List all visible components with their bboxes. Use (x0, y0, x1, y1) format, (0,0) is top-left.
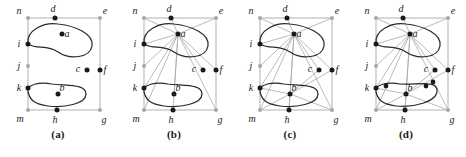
vertex-label-h: h (285, 114, 290, 125)
vertex-label-e: e (103, 5, 108, 16)
vertex-label-c: c (308, 63, 313, 74)
panel-c: ndeijkmhgfcab(c) (232, 0, 348, 157)
vertex-label-c: c (76, 63, 81, 74)
vertex-label-k: k (365, 82, 370, 93)
vertex-c (85, 68, 90, 73)
vertex-label-m: m (248, 113, 255, 124)
vertex-label-f: f (220, 64, 224, 75)
vertex-label-c: c (192, 63, 197, 74)
vertex-label-b: b (408, 82, 413, 93)
vertex-e (214, 16, 218, 20)
vertex-h (55, 108, 60, 113)
panel-b-caption: (b) (116, 128, 232, 140)
vertex-d (401, 16, 406, 21)
vertex-label-a: a (181, 28, 186, 39)
edge-b-m (376, 94, 406, 110)
vertex-label-j: j (364, 60, 369, 71)
vertex-label-h: h (169, 114, 174, 125)
vertex-label-j: j (248, 60, 253, 71)
vertex-label-i: i (366, 38, 369, 49)
vertex-label-f: f (452, 64, 456, 75)
edge-a-c (410, 34, 435, 70)
edge-a-m (144, 34, 178, 110)
vertex-n (142, 16, 146, 20)
vertex-label-b: b (60, 82, 65, 93)
vertex-label-k: k (17, 82, 22, 93)
vertex-i (258, 42, 263, 47)
panel-c-caption: (c) (232, 128, 348, 140)
vertex-label-f: f (336, 64, 340, 75)
vertex-label-n: n (17, 5, 22, 16)
vertex-k (142, 86, 147, 91)
region-blob-a (28, 24, 92, 57)
vertex-label-d: d (283, 3, 289, 14)
vertex-j (258, 64, 262, 68)
vertex-label-a: a (65, 28, 70, 39)
extra-vertex-p3 (431, 80, 436, 85)
vertex-j (374, 64, 378, 68)
figure-four-panel-diagram: ndeijkmhgfcab(a)ndeijkmhgfcab(b)ndeijkmh… (0, 0, 466, 157)
edge-a-c (294, 34, 319, 70)
panel-d-caption: (d) (348, 128, 464, 140)
vertex-label-n: n (249, 5, 254, 16)
vertex-i (142, 42, 147, 47)
vertex-d (53, 16, 58, 21)
vertex-label-i: i (18, 38, 21, 49)
vertex-h (287, 108, 292, 113)
panel-d-canvas: ndeijkmhgfcab (348, 0, 464, 130)
vertex-label-n: n (133, 5, 138, 16)
vertex-label-f: f (104, 64, 108, 75)
vertex-label-b: b (292, 82, 297, 93)
vertex-e (98, 16, 102, 20)
vertex-label-n: n (365, 5, 370, 16)
extra-vertex-p1 (384, 84, 389, 89)
vertex-label-j: j (16, 60, 21, 71)
vertex-label-b: b (176, 82, 181, 93)
vertex-label-g: g (218, 114, 223, 125)
vertex-label-c: c (424, 63, 429, 74)
panel-b: ndeijkmhgfcab(b) (116, 0, 232, 157)
vertex-f (446, 68, 451, 73)
vertex-label-g: g (102, 114, 107, 125)
vertex-label-h: h (401, 114, 406, 125)
vertex-f (330, 68, 335, 73)
vertex-m (26, 108, 30, 112)
vertex-label-m: m (364, 113, 371, 124)
vertex-g (98, 108, 102, 112)
vertex-label-g: g (334, 114, 339, 125)
extra-vertex-p2 (424, 84, 429, 89)
vertex-m (374, 108, 378, 112)
edge-b-k (376, 88, 406, 94)
edge-a-m (260, 34, 294, 110)
vertex-n (374, 16, 378, 20)
vertex-label-d: d (51, 3, 57, 14)
edge-a-f (294, 34, 332, 70)
vertex-i (26, 42, 31, 47)
vertex-label-k: k (249, 82, 254, 93)
vertex-g (446, 108, 450, 112)
edge-b-k (260, 88, 290, 94)
vertex-label-j: j (132, 60, 137, 71)
vertex-d (169, 16, 174, 21)
vertex-h (403, 108, 408, 113)
vertex-k (374, 86, 379, 91)
panel-d: ndeijkmhgfcab(d) (348, 0, 464, 157)
panel-a: ndeijkmhgfcab(a) (0, 0, 116, 157)
vertex-label-a: a (413, 28, 418, 39)
edge-a-g (410, 34, 448, 110)
edge-a-f (410, 34, 448, 70)
vertex-label-i: i (250, 38, 253, 49)
vertex-label-e: e (335, 5, 340, 16)
edge-a-m (376, 34, 410, 110)
vertex-m (258, 108, 262, 112)
vertex-f (98, 68, 103, 73)
edge-a-g (178, 34, 216, 110)
vertex-f (214, 68, 219, 73)
vertex-label-e: e (219, 5, 224, 16)
panel-a-caption: (a) (0, 128, 116, 140)
vertex-label-m: m (132, 113, 139, 124)
vertex-h (171, 108, 176, 113)
vertex-e (330, 16, 334, 20)
vertex-g (330, 108, 334, 112)
vertex-j (26, 64, 30, 68)
